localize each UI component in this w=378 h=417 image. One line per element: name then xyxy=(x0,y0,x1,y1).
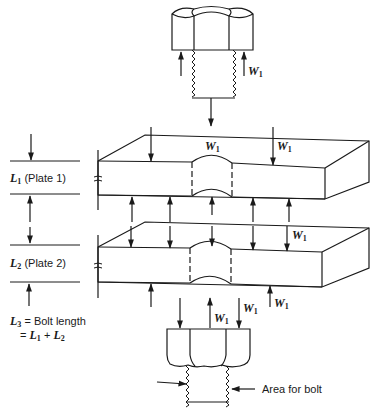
bolt-thread-left xyxy=(192,50,195,97)
interface-load-arrows xyxy=(132,197,289,222)
bolt-head xyxy=(172,7,253,51)
svg-text:W1: W1 xyxy=(214,311,229,326)
plate-1: W1 W1 xyxy=(94,127,369,210)
nut-body xyxy=(167,329,250,367)
svg-text:W1: W1 xyxy=(248,64,263,79)
plate1-length-label: L1 (Plate 1) xyxy=(9,171,66,186)
nut-thread-right xyxy=(226,366,229,407)
svg-text:W1: W1 xyxy=(274,296,289,311)
plate2-length-label: L2 (Plate 2) xyxy=(9,256,66,271)
plate-2: W1 W1 xyxy=(94,222,369,311)
svg-text:W1: W1 xyxy=(243,301,258,316)
bolt-thread-right xyxy=(233,50,236,97)
bolt-length-equation: = L1 + L2 xyxy=(20,328,65,343)
bottom-nut: W1 W1 Area for bolt xyxy=(157,298,322,407)
nut-thread-left xyxy=(186,366,189,407)
bolted-joint-diagram: W1 L1 (Plate 1) L2 (Plate 2) L3 = Bolt l… xyxy=(0,0,378,417)
bolt-length-label: L3 = Bolt length xyxy=(9,314,86,329)
area-for-bolt-label: Area for bolt xyxy=(262,383,322,395)
top-bolt: W1 xyxy=(172,7,263,127)
dimension-annotations: L1 (Plate 1) L2 (Plate 2) L3 = Bolt leng… xyxy=(9,134,86,343)
